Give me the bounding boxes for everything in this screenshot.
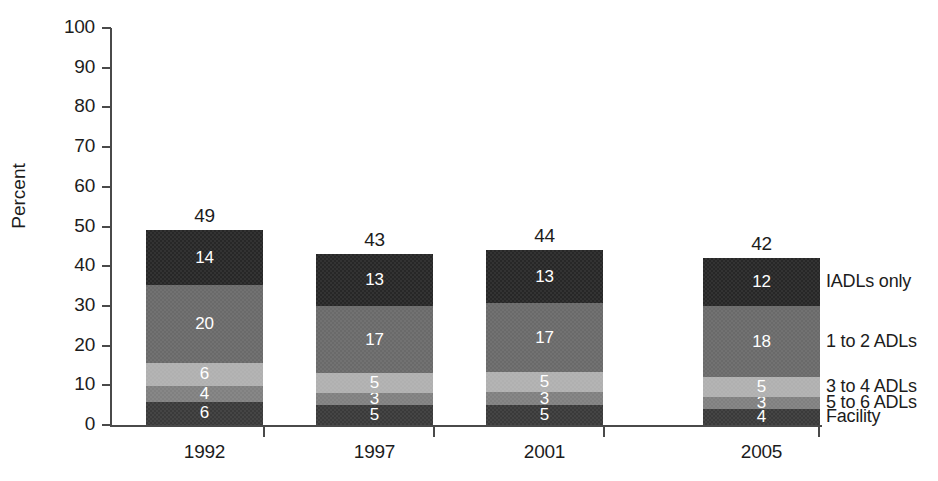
bar-segment-value: 13 (535, 267, 554, 287)
x-axis-label-1997: 1997 (354, 441, 395, 463)
x-axis-tick (603, 427, 605, 437)
y-axis-tick-label: 90 (74, 56, 95, 78)
x-axis-tick (263, 427, 265, 437)
bar-segment-3-to-4-adls[interactable]: 5 (486, 372, 603, 392)
bar-segment-1-to-2-adls[interactable]: 18 (703, 306, 820, 377)
bar-segment-iadls-only[interactable]: 13 (486, 250, 603, 303)
legend-label-1-to-2-adls: 1 to 2 ADLs (826, 331, 917, 352)
bar-segment-value: 20 (195, 314, 214, 334)
legend-label-iadls-only: IADLs only (826, 271, 911, 292)
bar-total-label: 44 (486, 225, 603, 247)
bar-segment-5-to-6-adls[interactable]: 4 (146, 386, 263, 402)
bar-segment-value: 13 (365, 270, 384, 290)
bar-segment-value: 5 (370, 373, 379, 393)
bar-segment-value: 4 (757, 409, 766, 425)
x-axis-label-2005: 2005 (741, 441, 782, 463)
y-axis-tick: 100 (102, 27, 111, 29)
bar-total-label: 49 (146, 205, 263, 227)
x-axis-line (110, 425, 822, 427)
bar-segment-value: 5 (757, 377, 766, 397)
bar-segment-value: 18 (752, 332, 771, 352)
y-axis-tick: 30 (102, 305, 111, 307)
y-axis-tick-label: 10 (74, 373, 95, 395)
stacked-bar-chart: Percent 0102030405060708090100 491420646… (0, 0, 938, 481)
bar-segment-5-to-6-adls[interactable]: 3 (486, 392, 603, 404)
bar-segment-1-to-2-adls[interactable]: 20 (146, 285, 263, 363)
bar-segment-value: 5 (370, 405, 379, 425)
bar-segment-iadls-only[interactable]: 14 (146, 230, 263, 284)
bar-segment-iadls-only[interactable]: 12 (703, 258, 820, 306)
y-axis-tick-label: 30 (74, 294, 95, 316)
bar-segment-value: 3 (370, 393, 379, 405)
legend-label-facility: Facility (826, 406, 880, 427)
y-axis-tick: 90 (102, 67, 111, 69)
y-axis-title: Percent (8, 163, 30, 228)
bar-1992[interactable]: 491420646 (146, 230, 263, 425)
y-axis-tick: 80 (102, 106, 111, 108)
y-axis-tick: 0 (102, 424, 111, 426)
x-axis-label-1992: 1992 (184, 441, 225, 463)
bar-2001[interactable]: 441317535 (486, 250, 603, 425)
bar-segment-1-to-2-adls[interactable]: 17 (486, 303, 603, 372)
y-axis-tick-label: 70 (74, 135, 95, 157)
bar-segment-facility[interactable]: 4 (703, 409, 820, 425)
bar-segment-value: 17 (365, 330, 384, 350)
y-axis-tick-label: 20 (74, 334, 95, 356)
y-axis-tick-label: 50 (74, 215, 95, 237)
bar-segment-value: 5 (540, 405, 549, 425)
y-axis-tick: 10 (102, 384, 111, 386)
bar-segment-3-to-4-adls[interactable]: 6 (146, 363, 263, 386)
x-axis-tick (433, 427, 435, 437)
y-axis-tick-label: 40 (74, 254, 95, 276)
y-axis-tick: 70 (102, 146, 111, 148)
bar-segment-value: 3 (757, 397, 766, 409)
bar-segment-value: 5 (540, 372, 549, 392)
bar-segment-3-to-4-adls[interactable]: 5 (703, 377, 820, 397)
x-axis-label-2001: 2001 (524, 441, 565, 463)
bar-segment-5-to-6-adls[interactable]: 3 (316, 393, 433, 405)
bar-segment-value: 6 (200, 403, 209, 423)
bar-segment-facility[interactable]: 5 (486, 405, 603, 425)
y-axis-tick: 40 (102, 265, 111, 267)
bar-segment-iadls-only[interactable]: 13 (316, 254, 433, 306)
bar-segment-1-to-2-adls[interactable]: 17 (316, 306, 433, 373)
y-axis-tick-label: 0 (85, 413, 95, 435)
bar-segment-5-to-6-adls[interactable]: 3 (703, 397, 820, 409)
bar-segment-value: 6 (200, 364, 209, 384)
bar-segment-value: 3 (540, 392, 549, 404)
bar-segment-value: 17 (535, 328, 554, 348)
bar-total-label: 43 (316, 229, 433, 251)
bar-segment-value: 12 (752, 272, 771, 292)
y-axis-tick-label: 80 (74, 95, 95, 117)
bar-segment-value: 4 (200, 386, 209, 402)
bar-segment-facility[interactable]: 6 (146, 402, 263, 425)
bar-2005[interactable]: 421218534 (703, 258, 820, 425)
y-axis-line (110, 28, 112, 427)
x-axis-tick (818, 427, 820, 437)
bar-segment-facility[interactable]: 5 (316, 405, 433, 425)
y-axis-tick: 60 (102, 186, 111, 188)
y-axis-tick: 50 (102, 226, 111, 228)
bar-segment-value: 14 (195, 248, 214, 268)
bar-total-label: 42 (703, 233, 820, 255)
bar-1997[interactable]: 431317535 (316, 254, 433, 425)
y-axis-tick-label: 100 (64, 16, 95, 38)
y-axis-tick: 20 (102, 345, 111, 347)
y-axis-tick-label: 60 (74, 175, 95, 197)
bar-segment-3-to-4-adls[interactable]: 5 (316, 373, 433, 393)
